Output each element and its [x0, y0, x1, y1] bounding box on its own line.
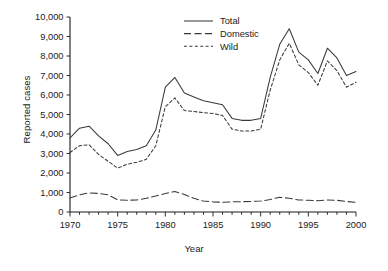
x-tick-label: 1980 — [155, 220, 176, 230]
x-tick-label: 1975 — [107, 220, 128, 230]
plot-area: 01,0002,0003,0004,0005,0006,0007,0008,00… — [0, 0, 388, 271]
chart-legend: TotalDomesticWild — [184, 16, 259, 51]
y-tick-label: 0 — [58, 207, 63, 217]
x-tick-label: 1990 — [250, 220, 271, 230]
x-tick-label: 2000 — [346, 220, 367, 230]
y-tick-label: 8,000 — [40, 51, 63, 61]
chart-svg: 01,0002,0003,0004,0005,0006,0007,0008,00… — [0, 0, 388, 271]
y-tick-label: 5,000 — [40, 110, 63, 120]
y-tick-label: 7,000 — [40, 71, 63, 81]
y-tick-label: 10,000 — [35, 12, 63, 22]
y-axis-tick-labels: 01,0002,0003,0004,0005,0006,0007,0008,00… — [35, 12, 63, 217]
y-tick-label: 2,000 — [40, 168, 63, 178]
x-tick-label: 1995 — [298, 220, 319, 230]
legend-label-total: Total — [220, 16, 240, 26]
x-axis-tick-labels: 1970197519801985199019952000 — [60, 220, 367, 230]
axis-ticks — [67, 17, 357, 217]
y-tick-label: 9,000 — [40, 32, 63, 42]
x-tick-label: 1985 — [203, 220, 224, 230]
y-tick-label: 4,000 — [40, 129, 63, 139]
data-series-group — [70, 29, 356, 203]
y-tick-label: 6,000 — [40, 90, 63, 100]
y-tick-label: 1,000 — [40, 188, 63, 198]
y-tick-label: 3,000 — [40, 149, 63, 159]
legend-label-wild: Wild — [220, 42, 238, 52]
legend-label-domestic: Domestic — [220, 29, 259, 39]
x-tick-label: 1970 — [60, 220, 81, 230]
chart-figure: Reported cases Year 01,0002,0003,0004,00… — [0, 0, 388, 271]
series-line-domestic — [70, 192, 356, 203]
series-line-total — [70, 29, 356, 156]
